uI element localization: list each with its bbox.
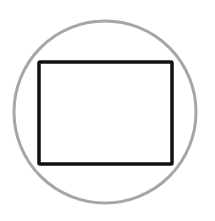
inner-rectangle [39, 62, 172, 164]
diagram-canvas [0, 0, 215, 221]
